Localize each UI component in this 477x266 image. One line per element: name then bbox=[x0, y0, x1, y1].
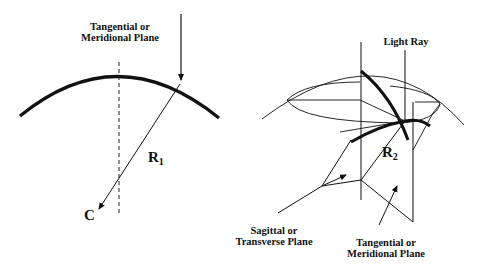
outer-arc bbox=[262, 76, 464, 125]
radius-subscript: 2 bbox=[393, 151, 398, 162]
label-line-2: Meridional Plane bbox=[72, 32, 168, 43]
label-line-1: Sagittal or bbox=[226, 225, 322, 236]
center-letter: C bbox=[84, 207, 95, 223]
light-ray-label: Light Ray bbox=[381, 36, 431, 47]
plane-edge bbox=[433, 104, 440, 113]
tangential-pointer-arrow bbox=[379, 186, 397, 225]
radius-r2-label: R2 bbox=[382, 145, 398, 164]
label-line-1: Tangential or bbox=[72, 21, 168, 32]
radius-letter: R bbox=[382, 144, 393, 160]
sagittal-plane-leader bbox=[278, 186, 322, 213]
label-line-2: Meridional Plane bbox=[338, 248, 434, 259]
right-figure bbox=[262, 42, 464, 225]
radius-letter: R bbox=[148, 149, 159, 165]
radius-r1-arrow bbox=[99, 84, 180, 209]
tangential-plane-edge bbox=[361, 180, 413, 222]
left-figure bbox=[20, 14, 219, 214]
label-line-1: Tangential or bbox=[338, 237, 434, 248]
radius-r1-label: R1 bbox=[148, 150, 164, 169]
right-tangential-plane-label: Tangential or Meridional Plane bbox=[338, 237, 434, 259]
sagittal-plane-label: Sagittal or Transverse Plane bbox=[226, 225, 322, 247]
latitude-ellipse-back-right bbox=[390, 86, 440, 104]
center-c-label: C bbox=[84, 208, 95, 223]
latitude-ellipse-back bbox=[287, 82, 360, 100]
ray-label-text: Light Ray bbox=[381, 36, 431, 47]
label-line-2: Transverse Plane bbox=[226, 236, 322, 247]
left-tangential-plane-label: Tangential or Meridional Plane bbox=[72, 21, 168, 43]
radius-subscript: 1 bbox=[159, 156, 164, 167]
